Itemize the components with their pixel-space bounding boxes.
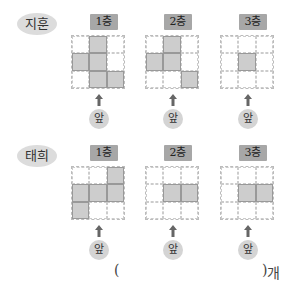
floor-grid bbox=[71, 35, 125, 89]
answer-blank[interactable] bbox=[124, 262, 254, 280]
filled-cell bbox=[107, 71, 124, 88]
filled-cell bbox=[181, 71, 198, 88]
floor-badge: 2층 bbox=[164, 14, 192, 30]
empty-cell bbox=[238, 71, 255, 88]
empty-cell bbox=[181, 53, 198, 70]
arrow-up-icon bbox=[169, 225, 177, 237]
filled-cell bbox=[163, 184, 180, 201]
name-label: 지훈 bbox=[17, 13, 57, 35]
floor-grid bbox=[145, 35, 199, 89]
filled-cell bbox=[89, 36, 106, 53]
front-label: 앞 bbox=[163, 240, 183, 260]
empty-cell bbox=[256, 71, 273, 88]
empty-cell bbox=[221, 202, 238, 219]
empty-cell bbox=[256, 202, 273, 219]
arrow-up-icon bbox=[244, 94, 252, 106]
filled-cell bbox=[72, 184, 89, 201]
empty-cell bbox=[221, 53, 238, 70]
empty-cell bbox=[181, 36, 198, 53]
empty-cell bbox=[238, 202, 255, 219]
filled-cell bbox=[238, 184, 255, 201]
filled-cell bbox=[256, 184, 273, 201]
floor-grid bbox=[71, 166, 125, 220]
empty-cell bbox=[221, 167, 238, 184]
front-label: 앞 bbox=[89, 240, 109, 260]
empty-cell bbox=[238, 36, 255, 53]
empty-cell bbox=[89, 167, 106, 184]
arrow-up-icon bbox=[169, 94, 177, 106]
front-label: 앞 bbox=[163, 109, 183, 129]
empty-cell bbox=[256, 53, 273, 70]
arrow-up-icon bbox=[95, 94, 103, 106]
floor-badge: 3층 bbox=[239, 145, 267, 161]
empty-cell bbox=[163, 202, 180, 219]
empty-cell bbox=[181, 167, 198, 184]
floor-grid bbox=[220, 166, 274, 220]
filled-cell bbox=[238, 53, 255, 70]
empty-cell bbox=[221, 184, 238, 201]
front-label: 앞 bbox=[238, 109, 258, 129]
empty-cell bbox=[146, 167, 163, 184]
floor-grid bbox=[220, 35, 274, 89]
filled-cell bbox=[72, 202, 89, 219]
filled-cell bbox=[163, 53, 180, 70]
empty-cell bbox=[256, 167, 273, 184]
empty-cell bbox=[146, 184, 163, 201]
empty-cell bbox=[221, 36, 238, 53]
empty-cell bbox=[72, 167, 89, 184]
empty-cell bbox=[221, 71, 238, 88]
filled-cell bbox=[107, 184, 124, 201]
floor-badge: 2층 bbox=[164, 145, 192, 161]
empty-cell bbox=[89, 202, 106, 219]
filled-cell bbox=[89, 71, 106, 88]
filled-cell bbox=[89, 184, 106, 201]
empty-cell bbox=[146, 202, 163, 219]
front-label: 앞 bbox=[89, 109, 109, 129]
empty-cell bbox=[146, 36, 163, 53]
answer-open-paren: ( bbox=[114, 262, 119, 278]
filled-cell bbox=[72, 53, 89, 70]
filled-cell bbox=[89, 53, 106, 70]
empty-cell bbox=[107, 36, 124, 53]
empty-cell bbox=[163, 167, 180, 184]
empty-cell bbox=[238, 167, 255, 184]
empty-cell bbox=[181, 202, 198, 219]
filled-cell bbox=[146, 53, 163, 70]
empty-cell bbox=[72, 36, 89, 53]
answer-unit: 개 bbox=[267, 262, 280, 282]
name-label: 태희 bbox=[17, 145, 57, 167]
empty-cell bbox=[146, 71, 163, 88]
floor-badge: 3층 bbox=[239, 14, 267, 30]
filled-cell bbox=[181, 184, 198, 201]
arrow-up-icon bbox=[95, 225, 103, 237]
floor-badge: 1층 bbox=[90, 145, 118, 161]
filled-cell bbox=[107, 167, 124, 184]
empty-cell bbox=[107, 53, 124, 70]
filled-cell bbox=[163, 36, 180, 53]
front-label: 앞 bbox=[238, 240, 258, 260]
empty-cell bbox=[163, 71, 180, 88]
empty-cell bbox=[72, 71, 89, 88]
empty-cell bbox=[107, 202, 124, 219]
arrow-up-icon bbox=[244, 225, 252, 237]
floor-badge: 1층 bbox=[90, 14, 118, 30]
empty-cell bbox=[256, 36, 273, 53]
floor-grid bbox=[145, 166, 199, 220]
